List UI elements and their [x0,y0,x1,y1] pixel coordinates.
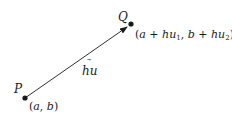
point-q-coords: (a + hu1, b + hu2) [135,29,232,42]
vector-label: hu⃗ [82,65,97,77]
point-p-dot [22,95,27,100]
vector-arrow [25,27,127,98]
point-p-coords: (a, b) [29,101,58,112]
point-q-dot [128,21,133,26]
point-q-label: Q [118,11,128,23]
vector-diagram: P (a, b) Q (a + hu1, b + hu2) hu⃗ [0,0,232,118]
point-p-label: P [14,83,22,95]
